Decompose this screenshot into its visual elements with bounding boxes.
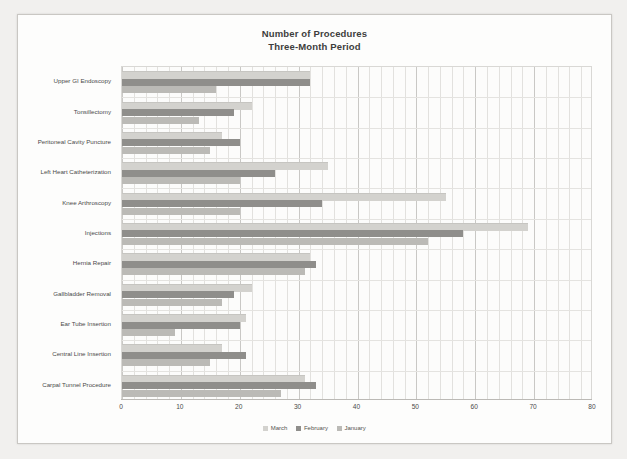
legend-label: February xyxy=(304,425,328,431)
bar-january xyxy=(122,329,175,336)
chart-subtitle: Three-Month Period xyxy=(18,40,611,53)
x-axis-tick-label: 50 xyxy=(412,403,419,410)
bar-january xyxy=(122,390,281,397)
legend-label: March xyxy=(271,425,288,431)
y-axis-tick-label: Upper GI Endoscopy xyxy=(17,77,111,85)
y-axis-tick-label: Gallbladder Removal xyxy=(17,290,111,298)
bar-january xyxy=(122,117,199,124)
legend-item[interactable]: February xyxy=(296,425,328,431)
x-axis-tick-label: 80 xyxy=(588,403,595,410)
y-axis-tick-label: Left Heart Catheterization xyxy=(17,168,111,176)
bar-january xyxy=(122,238,428,245)
bar-group xyxy=(122,310,591,340)
bar-february xyxy=(122,261,316,268)
bar-january xyxy=(122,268,305,275)
x-axis-tick-label: 60 xyxy=(471,403,478,410)
bar-february xyxy=(122,291,234,298)
bar-group xyxy=(122,280,591,310)
bar-january xyxy=(122,86,216,93)
bar-group xyxy=(122,158,591,188)
x-axis-tick-label: 10 xyxy=(176,403,183,410)
x-axis-tick-label: 40 xyxy=(353,403,360,410)
bar-group xyxy=(122,97,591,127)
bar-february xyxy=(122,109,234,116)
y-axis-tick-label: Ear Tube Insertion xyxy=(17,320,111,328)
bar-group xyxy=(122,67,591,97)
legend-swatch-icon xyxy=(263,426,268,431)
y-axis-tick-label: Peritoneal Cavity Puncture xyxy=(17,138,111,146)
bar-february xyxy=(122,352,246,359)
bar-january xyxy=(122,208,240,215)
legend-item[interactable]: March xyxy=(263,425,287,431)
y-axis-tick-label: Carpal Tunnel Procedure xyxy=(17,381,111,389)
bar-february xyxy=(122,200,322,207)
bar-february xyxy=(122,139,240,146)
bar-january xyxy=(122,147,210,154)
page-root: Number of Procedures Three-Month Period … xyxy=(0,0,627,459)
bars-layer xyxy=(122,67,591,399)
bar-january xyxy=(122,359,210,366)
legend-swatch-icon xyxy=(337,426,342,431)
chart-title: Number of Procedures xyxy=(18,27,611,40)
y-axis-tick-label: Knee Arthroscopy xyxy=(17,199,111,207)
x-axis-labels: 01020304050607080 xyxy=(121,403,592,417)
bar-group xyxy=(122,340,591,370)
bar-group xyxy=(122,371,591,401)
bar-january xyxy=(122,177,240,184)
bar-february xyxy=(122,170,275,177)
x-axis-tick-label: 30 xyxy=(294,403,301,410)
bar-february xyxy=(122,79,310,86)
x-axis-tick-label: 70 xyxy=(529,403,536,410)
x-axis-tick-label: 20 xyxy=(235,403,242,410)
chart-title-block: Number of Procedures Three-Month Period xyxy=(18,27,611,53)
y-axis-labels: Upper GI EndoscopyTonsillectomyPeritonea… xyxy=(18,66,117,400)
y-axis-tick-label: Hernia Repair xyxy=(17,259,111,267)
bar-group xyxy=(122,249,591,279)
x-axis-tick-label: 0 xyxy=(119,403,123,410)
chart-card: Number of Procedures Three-Month Period … xyxy=(17,14,612,444)
chart-legend: MarchFebruaryJanuary xyxy=(18,425,611,431)
bar-group xyxy=(122,219,591,249)
legend-item[interactable]: January xyxy=(337,425,366,431)
bar-group xyxy=(122,188,591,218)
y-axis-tick-label: Injections xyxy=(17,229,111,237)
bar-january xyxy=(122,299,222,306)
bar-february xyxy=(122,382,316,389)
legend-label: January xyxy=(344,425,365,431)
y-axis-tick-label: Central Line Insertion xyxy=(17,350,111,358)
bar-february xyxy=(122,230,463,237)
bar-group xyxy=(122,128,591,158)
x-axis-line xyxy=(121,399,592,400)
legend-swatch-icon xyxy=(296,426,301,431)
y-axis-tick-label: Tonsillectomy xyxy=(17,108,111,116)
plot-area xyxy=(121,66,592,400)
bar-february xyxy=(122,322,240,329)
